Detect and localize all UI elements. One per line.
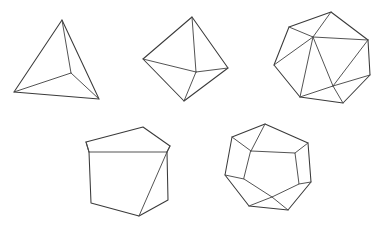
solid-octahedron [143, 17, 228, 101]
octahedron-inner-edge-top [192, 17, 196, 72]
icosahedron-inner-edge-6 [313, 37, 333, 86]
solid-icosahedron [274, 12, 370, 103]
octahedron-inner-edge-left [143, 59, 196, 72]
dodecahedron-inner-edge-2 [232, 137, 251, 151]
dodecahedron-inner-edge-5 [249, 197, 272, 206]
dodecahedron-inner-edge-3 [295, 143, 308, 153]
cube-inner-edge-left-top [86, 142, 89, 152]
platonic-solids-figure [0, 0, 378, 230]
tetrahedron-inner-edge-right [71, 73, 99, 99]
cube-outline [86, 127, 170, 216]
dodecahedron-inner-edge-6 [272, 197, 288, 210]
solid-tetrahedron [14, 20, 99, 99]
cube-inner-edge-right-top [167, 146, 170, 152]
icosahedron-inner-edge-10 [333, 40, 368, 86]
solid-cube [86, 127, 170, 216]
cube-inner-edge-vertical-front [139, 152, 167, 216]
icosahedron-inner-edge-9 [300, 86, 333, 97]
dodecahedron-inner-edge-1 [251, 124, 265, 151]
dodecahedron-outline [225, 124, 311, 210]
icosahedron-inner-edge-1 [289, 27, 313, 37]
icosahedron-inner-edge-8 [333, 86, 343, 103]
tetrahedron-inner-edge-apex [62, 20, 71, 73]
solid-dodecahedron [225, 124, 311, 210]
octahedron-outline [143, 17, 228, 101]
icosahedron-inner-edge-5 [300, 37, 313, 97]
tetrahedron-inner-edge-left [14, 73, 71, 92]
icosahedron-inner-edge-3 [313, 37, 368, 40]
dodecahedron-front-pentagon [244, 151, 299, 197]
solids-drawing-canvas [0, 0, 378, 230]
